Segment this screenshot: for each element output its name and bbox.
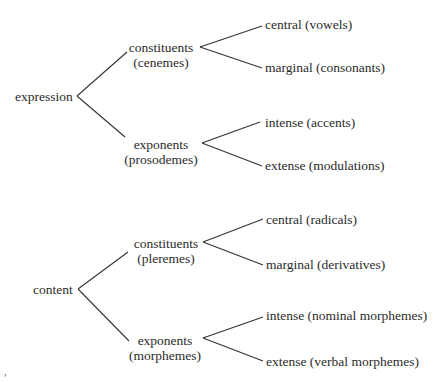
tree-connectors [0,0,441,383]
connector-line [77,52,127,96]
branch-label: exponents [122,137,200,152]
branch-sublabel: (cenemes) [124,55,198,70]
leaf-node: intense (accents) [265,115,355,130]
branch-sublabel: (pleremes) [129,251,203,266]
connector-line [200,26,262,47]
connector-line [203,338,263,361]
connector-line [203,219,263,242]
root-node-expression: expression [15,89,73,104]
connector-line [78,289,129,341]
connector-line [203,317,263,338]
connector-line [200,47,262,68]
connector-line [77,96,125,137]
branch-sublabel: (morphemes) [127,348,203,363]
diagram-canvas: expression constituents (cenemes) expone… [0,0,441,383]
branch-label: constituents [124,40,198,55]
leaf-node: marginal (derivatives) [266,257,385,272]
branch-node-constituents: constituents (pleremes) [129,236,203,266]
connector-line [78,252,128,289]
branch-node-exponents: exponents (morphemes) [127,333,203,363]
branch-label: exponents [127,333,203,348]
root-node-content: content [33,282,73,297]
branch-label: constituents [129,236,203,251]
connector-line [202,143,262,166]
leaf-node: marginal (consonants) [265,60,385,75]
branch-sublabel: (prosodemes) [122,152,200,167]
leaf-node: extense (verbal morphemes) [266,354,419,369]
footnote-mark: , [4,364,7,379]
branch-node-exponents: exponents (prosodemes) [122,137,200,167]
leaf-node: intense (nominal morphemes) [266,308,427,323]
leaf-node: central (vowels) [265,17,352,32]
connector-line [203,242,263,265]
leaf-node: extense (modulations) [265,158,385,173]
connector-line [202,122,260,143]
leaf-node: central (radicals) [266,212,357,227]
branch-node-constituents: constituents (cenemes) [124,40,198,70]
